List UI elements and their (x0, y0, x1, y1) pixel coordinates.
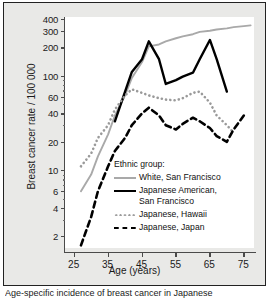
y-tick-mark (61, 19, 65, 20)
y-tick-label: 2 (53, 231, 58, 242)
y-tick-mark (63, 175, 66, 176)
y-tick-label: 400 (43, 14, 58, 25)
y-tick-mark (63, 90, 66, 91)
x-tick-mark (74, 252, 75, 257)
y-tick-mark (63, 220, 66, 221)
legend-item-japanese-japan[interactable]: Japanese, Japan (114, 222, 221, 233)
y-tick-mark (61, 142, 65, 143)
y-tick-mark (61, 236, 65, 237)
legend: Ethnic group: White, San Francisco Japan… (114, 159, 221, 233)
y-tick-label: 40 (48, 108, 58, 119)
x-tick-mark (243, 252, 244, 257)
x-tick-mark (108, 252, 109, 257)
y-tick-mark (61, 208, 65, 209)
legend-swatch-dashed-icon (114, 223, 136, 232)
y-tick-label: 300 (43, 25, 58, 36)
y-tick-mark (63, 125, 66, 126)
legend-label: Japanese, Japan (139, 222, 204, 233)
legend-title: Ethnic group: (114, 159, 221, 170)
y-tick-label: 60 (48, 91, 58, 102)
y-tick-mark (63, 85, 66, 86)
y-tick-mark (61, 76, 65, 77)
legend-item-japanese-hawaii[interactable]: Japanese, Hawaii (114, 209, 221, 220)
legend-label-continuation: San Francisco (139, 196, 221, 207)
legend-label: White, San Francisco (139, 172, 221, 183)
y-tick-mark (63, 199, 66, 200)
y-tick-label: 10 (48, 165, 58, 176)
y-tick-mark (61, 31, 65, 32)
y-tick-label: 6 (53, 186, 58, 197)
y-tick-mark (61, 47, 65, 48)
figure-container: 24610204060100200300400 253545556575 Age… (3, 2, 266, 286)
legend-item-white-san-francisco[interactable]: White, San Francisco (114, 172, 221, 183)
x-tick-mark (142, 252, 143, 257)
y-axis-title: Breast cancer rate / 100 000 (26, 42, 37, 212)
y-tick-label: 100 (43, 70, 58, 81)
x-tick-mark (209, 252, 210, 257)
y-tick-mark (61, 191, 65, 192)
y-tick-mark (63, 104, 66, 105)
y-tick-mark (61, 113, 65, 114)
legend-swatch-dotted-icon (114, 210, 136, 219)
y-tick-mark (61, 97, 65, 98)
x-tick-mark (175, 252, 176, 257)
figure-caption: Age-specific incidence of breast cancer … (5, 288, 267, 298)
y-tick-label: 4 (53, 202, 58, 213)
legend-swatch-solid-gray-icon (114, 173, 136, 182)
x-axis-title: Age (years) (4, 265, 265, 276)
legend-swatch-solid-black-icon (114, 186, 136, 195)
legend-item-japanese-american-san-francisco[interactable]: Japanese American, (114, 185, 221, 196)
legend-label: Japanese, Hawaii (139, 209, 207, 220)
y-axis-line: 24610204060100200300400 (64, 17, 66, 252)
y-tick-mark (63, 185, 66, 186)
x-axis-line: 253545556575 (64, 252, 256, 254)
y-tick-label: 20 (48, 136, 58, 147)
legend-label: Japanese American, (139, 185, 217, 196)
y-tick-mark (61, 170, 65, 171)
y-tick-mark (63, 80, 66, 81)
y-tick-mark (63, 179, 66, 180)
y-tick-label: 200 (43, 42, 58, 53)
